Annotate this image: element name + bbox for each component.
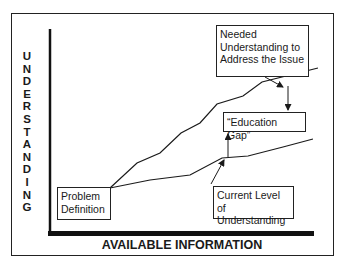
y-letter: I (20, 176, 34, 189)
needed-understanding-box: Needed Understanding to Address the Issu… (216, 25, 309, 77)
current-pointer-arrow (211, 160, 224, 184)
x-axis-label: AVAILABLE INFORMATION (48, 238, 316, 252)
education-gap-box: “Education Gap” (223, 112, 306, 132)
current-level-box: Current Level of Understanding (213, 186, 294, 219)
y-letter: T (20, 126, 34, 139)
y-letter: U (20, 50, 34, 63)
y-axis-label: U N D E R S T A N D I N G (20, 50, 34, 214)
y-letter: E (20, 88, 34, 101)
y-letter: N (20, 189, 34, 202)
y-letter: G (20, 201, 34, 214)
y-letter: D (20, 75, 34, 88)
current-understanding-line (110, 139, 313, 188)
y-letter: N (20, 63, 34, 76)
y-letter: A (20, 138, 34, 151)
x-axis (48, 231, 314, 236)
y-letter: N (20, 151, 34, 164)
problem-definition-box: Problem Definition (57, 187, 111, 220)
y-letter: S (20, 113, 34, 126)
y-letter: D (20, 163, 34, 176)
y-letter: R (20, 100, 34, 113)
